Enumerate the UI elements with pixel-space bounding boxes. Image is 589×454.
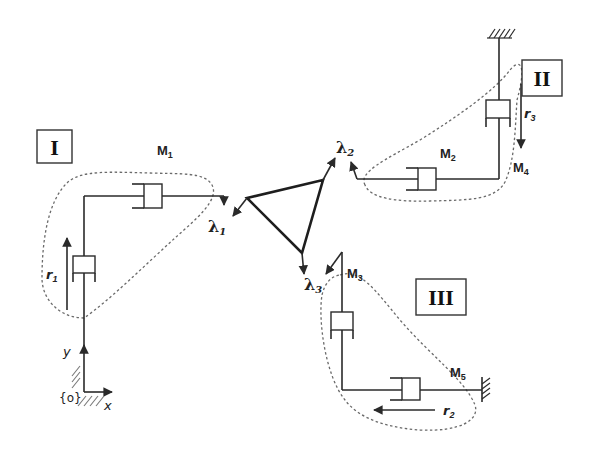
- lambda1-arrow: [233, 198, 247, 216]
- mechanism-diagram: r1 M1 I y x {o} λ1 λ2 λ3: [0, 0, 589, 454]
- chain-III-label: III: [428, 285, 454, 310]
- chain-II: r3 M2 M4 II: [351, 29, 562, 201]
- M3-label: M3: [347, 266, 363, 283]
- M2-label: M2: [440, 146, 456, 163]
- lambda2-arrow: [323, 158, 335, 180]
- prismatic-joint-r3: [486, 100, 510, 127]
- r3-label: r3: [524, 106, 535, 123]
- M5-label: M5: [450, 365, 466, 382]
- chain-I: r1 M1 I: [37, 130, 224, 348]
- chain-II-label: II: [533, 66, 550, 91]
- chain-II-end-hook: [351, 162, 357, 179]
- chain-III: r2 M3 M5 III: [321, 252, 490, 430]
- base-frame: y x {o}: [59, 344, 112, 413]
- chain-III-end-hook: [326, 252, 342, 274]
- ground-hatch-icon: [482, 378, 490, 399]
- x-axis-label: x: [103, 398, 112, 413]
- r2-label: r2: [443, 403, 454, 420]
- chain-I-label: I: [50, 135, 59, 160]
- origin-label: {o}: [59, 391, 82, 405]
- M4-label: M4: [513, 160, 529, 177]
- prismatic-joint-r2: [390, 378, 420, 400]
- lambda3-arrow: [302, 253, 304, 274]
- M1-label: M1: [157, 143, 173, 160]
- r1-label: r1: [46, 267, 57, 284]
- chain-II-outline: [364, 64, 522, 201]
- y-axis-label: y: [62, 344, 71, 359]
- moving-platform: λ1 λ2 λ3: [208, 138, 354, 295]
- ground-hatch-icon: [487, 29, 515, 38]
- lambda1-label: λ1: [208, 217, 226, 237]
- lambda2-label: λ2: [336, 138, 354, 158]
- triangular-platform: [247, 180, 323, 253]
- lambda3-label: λ3: [304, 275, 322, 295]
